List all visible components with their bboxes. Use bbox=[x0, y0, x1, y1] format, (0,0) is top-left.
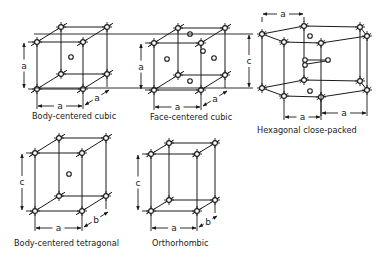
dimension-arrow bbox=[101, 90, 109, 95]
lattice-atom bbox=[302, 24, 307, 29]
face-center-atom bbox=[201, 49, 206, 54]
lattice-atom bbox=[302, 78, 307, 83]
body-center-atom bbox=[67, 172, 72, 177]
lattice-atom bbox=[176, 26, 181, 31]
lattice-edge bbox=[284, 42, 321, 43]
interior-atom bbox=[303, 63, 308, 68]
crystal-structures-diagram: aaa aaa caaa cab cab Body-centered cubic… bbox=[0, 0, 378, 263]
lattice-atom bbox=[282, 94, 287, 99]
lattice-edge bbox=[262, 26, 304, 34]
caption-bcc: Body-centered cubic bbox=[32, 111, 116, 121]
panel-hexagonal-close-packed: caaa bbox=[34, 9, 372, 122]
lattice-atom bbox=[358, 79, 363, 84]
lattice-edge bbox=[304, 26, 360, 27]
lattice-atom bbox=[59, 72, 64, 77]
panel-orthorhombic: cab bbox=[136, 138, 220, 233]
lattice-edge bbox=[304, 80, 360, 81]
lattice-atom bbox=[365, 88, 370, 93]
dimension-arrow bbox=[212, 216, 217, 219]
lattice-atom bbox=[365, 34, 370, 39]
lattice-atom bbox=[260, 32, 265, 37]
dimension-label-width: a bbox=[300, 112, 306, 122]
dimension-arrow bbox=[85, 100, 93, 105]
dimension-label-width: a bbox=[56, 223, 62, 233]
lattice-atom bbox=[149, 209, 154, 214]
dimension-label-width: a bbox=[57, 101, 63, 111]
lattice-atom bbox=[223, 73, 228, 78]
dimension-arrow bbox=[84, 222, 92, 227]
lattice-atom bbox=[199, 41, 204, 46]
lattice-atom bbox=[81, 40, 86, 45]
lattice-atom bbox=[167, 141, 172, 146]
lattice-atom bbox=[80, 151, 85, 156]
lattice-atom bbox=[57, 136, 62, 141]
dimension-arrow bbox=[219, 91, 227, 96]
panel-face-centered-cubic: aaa bbox=[138, 23, 231, 112]
body-center-atom bbox=[69, 55, 74, 60]
dimension-label-depth: a bbox=[212, 94, 218, 104]
lattice-atom bbox=[35, 40, 40, 45]
lattice-atom bbox=[213, 198, 218, 203]
lattice-atom bbox=[33, 209, 38, 214]
lattice-atom bbox=[81, 87, 86, 92]
interior-bond bbox=[307, 61, 326, 64]
dimension-label-height: a bbox=[21, 61, 27, 71]
caption-ortho: Orthorhombic bbox=[152, 238, 209, 248]
dimension-arrow bbox=[203, 101, 211, 106]
lattice-atom bbox=[223, 26, 228, 31]
face-center-atom bbox=[212, 56, 217, 61]
dimension-label-width: a bbox=[175, 102, 181, 112]
lattice-atom bbox=[167, 198, 172, 203]
interior-atom bbox=[326, 58, 331, 63]
lattice-atom bbox=[105, 25, 110, 30]
dimension-label-height: c bbox=[20, 177, 25, 187]
lattice-edge bbox=[284, 96, 321, 97]
dimension-label-depth: b bbox=[205, 217, 211, 227]
lattice-atom bbox=[57, 194, 62, 199]
panel-body-centered-cubic: aaa bbox=[21, 22, 113, 111]
lattice-atom bbox=[35, 87, 40, 92]
dimension-label-depth: b bbox=[93, 215, 99, 225]
dimension-label-depth: a bbox=[94, 93, 100, 103]
lattice-atom bbox=[195, 209, 200, 214]
dimension-label-width: a bbox=[171, 223, 177, 233]
lattice-atom bbox=[33, 151, 38, 156]
lattice-atom bbox=[195, 152, 200, 157]
interior-atom bbox=[308, 34, 313, 39]
dimension-arrow bbox=[100, 212, 108, 217]
face-center-atom bbox=[188, 79, 193, 84]
interior-atom bbox=[303, 58, 308, 63]
lattice-atom bbox=[104, 136, 109, 141]
dimension-label-height: a bbox=[138, 62, 144, 72]
lattice-atom bbox=[319, 41, 324, 46]
caption-bct: Body-centered tetragonal bbox=[14, 238, 119, 248]
lattice-edge bbox=[262, 34, 284, 42]
dimension-label-width: a bbox=[280, 9, 286, 19]
lattice-atom bbox=[104, 194, 109, 199]
lattice-atom bbox=[176, 73, 181, 78]
lattice-atom bbox=[80, 209, 85, 214]
panel-body-centered-tetragonal: cab bbox=[20, 133, 112, 233]
lattice-atom bbox=[260, 86, 265, 91]
lattice-atom bbox=[105, 72, 110, 77]
lattice-edge bbox=[262, 88, 284, 96]
caption-hcp: Hexagonal close-packed bbox=[257, 125, 357, 135]
dimension-label-width: a bbox=[341, 108, 347, 118]
dimension-label-height: c bbox=[247, 56, 252, 66]
face-center-atom bbox=[165, 57, 170, 62]
lattice-edge bbox=[321, 90, 367, 97]
lattice-atom bbox=[149, 152, 154, 157]
lattice-edge bbox=[262, 80, 304, 88]
lattice-atom bbox=[213, 141, 218, 146]
lattice-atom bbox=[282, 40, 287, 45]
lattice-atom bbox=[358, 25, 363, 30]
lattice-atom bbox=[152, 41, 157, 46]
interior-atom bbox=[308, 89, 313, 94]
dimension-label-height: c bbox=[136, 178, 141, 188]
dimension-arrow bbox=[199, 224, 204, 227]
caption-fcc: Face-centered cubic bbox=[150, 112, 232, 122]
lattice-atom bbox=[59, 25, 64, 30]
